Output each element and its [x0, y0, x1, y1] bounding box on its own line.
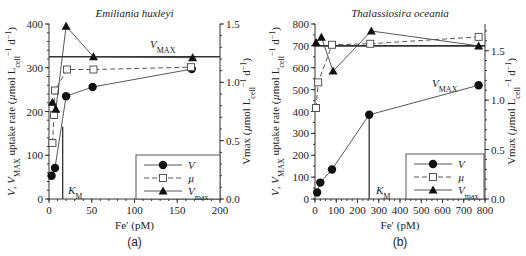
circle-marker — [47, 172, 55, 180]
x-tick-label: 200 — [212, 204, 229, 216]
series-mu — [49, 64, 195, 147]
y-tick-label: 200 — [27, 106, 44, 118]
y-right-tick-label: 1.5 — [491, 45, 505, 57]
legend-marker — [430, 174, 437, 181]
x-tick-label: 700 — [456, 204, 473, 216]
square-marker — [49, 140, 56, 147]
y-tick-label: 500 — [293, 84, 310, 96]
square-marker — [313, 105, 320, 112]
x-tick-label: 100 — [126, 204, 143, 216]
y-tick-label: 800 — [293, 18, 310, 30]
km-label: KM — [375, 184, 390, 201]
y-axis-label-left: V, VMAX uptake rate (µmol Lcell−1 d−1) — [268, 27, 286, 196]
circle-marker — [474, 81, 482, 89]
x-tick-label: 50 — [86, 204, 98, 216]
x-tick-label: 100 — [328, 204, 345, 216]
km-label: KM — [67, 184, 82, 201]
panel-title: Thalassiosira oceania — [351, 7, 449, 19]
series-line — [316, 37, 479, 108]
y-axis-label-right: Vmax (µmol Lcell−1 d−1) — [504, 58, 522, 165]
y-right-tick-label: 0.0 — [226, 193, 240, 205]
x-axis-label: Fe′ (pM) — [115, 219, 154, 232]
circle-marker — [328, 165, 336, 173]
y-tick-label: 300 — [293, 127, 310, 139]
triangle-marker — [51, 105, 60, 113]
panel-label: (a) — [127, 235, 142, 249]
y-tick-label: 700 — [293, 40, 310, 52]
y-tick-label: 100 — [27, 149, 44, 161]
panel-a-emiliania-huxleyi: 05010015020001002003004000.00.51.01.5Emi… — [4, 7, 257, 249]
panel-title: Emiliania huxleyi — [95, 7, 174, 19]
y-tick-label: 0 — [38, 193, 44, 205]
x-tick-label: 600 — [434, 204, 451, 216]
legend-entry-label: µ — [458, 171, 464, 183]
vmax-label: VMAX — [432, 77, 458, 94]
y-right-tick-label: 0.5 — [226, 135, 240, 147]
legend-marker — [159, 161, 167, 169]
square-marker — [475, 33, 482, 40]
y-right-tick-label: 1.0 — [491, 94, 505, 106]
figure: 05010015020001002003004000.00.51.01.5Emi… — [0, 0, 526, 256]
x-axis-label: Fe′ (pM) — [381, 219, 420, 232]
panel-label: (b) — [393, 235, 408, 249]
triangle-marker — [367, 27, 376, 35]
y-axis-label-right: Vmax (µmol Lcell−1 d−1) — [239, 58, 257, 165]
x-tick-label: 800 — [477, 204, 494, 216]
legend-entry-label: µ — [188, 172, 194, 184]
square-marker — [315, 79, 322, 86]
panel-b-thalassiosira-oceania: 0100200300400500600700800010020030040050… — [268, 7, 522, 249]
circle-marker — [313, 188, 321, 196]
x-tick-label: 300 — [371, 204, 388, 216]
legend: VµVmax — [136, 155, 220, 202]
y-right-tick-label: 0.0 — [491, 193, 505, 205]
series-vmax — [312, 27, 484, 75]
y-tick-label: 200 — [293, 149, 310, 161]
y-right-tick-label: 1.5 — [226, 18, 240, 30]
circle-marker — [62, 92, 70, 100]
square-marker — [367, 40, 374, 47]
legend-marker — [160, 175, 167, 182]
circle-marker — [316, 178, 324, 186]
x-tick-label: 0 — [312, 204, 318, 216]
square-marker — [187, 64, 194, 71]
series-line — [52, 67, 191, 143]
y-tick-label: 400 — [27, 18, 44, 30]
series-line — [316, 31, 479, 71]
chart-canvas: 05010015020001002003004000.00.51.01.5Emi… — [0, 0, 526, 256]
triangle-marker — [317, 33, 326, 41]
vmax-label: VMAX — [150, 38, 176, 55]
x-tick-label: 200 — [349, 204, 366, 216]
x-tick-label: 150 — [169, 204, 186, 216]
y-tick-label: 600 — [293, 62, 310, 74]
y-tick-label: 400 — [293, 106, 310, 118]
square-marker — [63, 66, 70, 73]
square-marker — [90, 66, 97, 73]
triangle-marker — [62, 22, 71, 30]
y-tick-label: 100 — [293, 171, 310, 183]
circle-marker — [365, 111, 373, 119]
y-right-tick-label: 0.5 — [491, 144, 505, 156]
legend: VµVmax — [406, 154, 484, 201]
x-tick-label: 500 — [413, 204, 430, 216]
circle-marker — [88, 83, 96, 91]
y-axis-label-left: V, VMAX uptake rate (µmol Lcell−1 d−1) — [4, 27, 22, 196]
circle-marker — [51, 164, 59, 172]
series-line — [52, 26, 192, 109]
y-tick-label: 300 — [27, 62, 44, 74]
square-marker — [329, 41, 336, 48]
x-tick-label: 400 — [392, 204, 409, 216]
y-tick-label: 0 — [304, 193, 310, 205]
legend-marker — [429, 160, 437, 168]
x-tick-label: 0 — [46, 204, 52, 216]
